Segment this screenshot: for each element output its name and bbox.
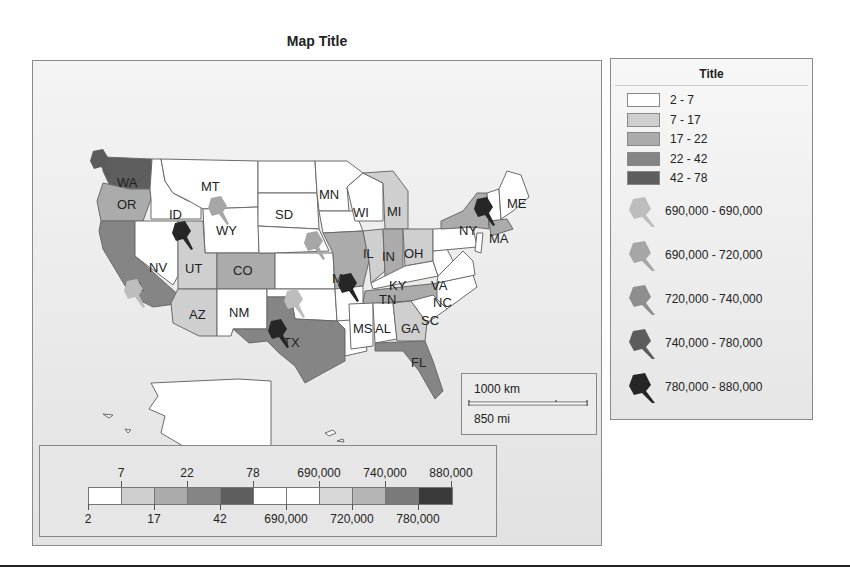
label-il: IL [363,246,374,261]
legend-title: Title [615,59,808,86]
bottom-divider [0,565,850,567]
label-wa: WA [117,175,138,190]
tick-mark [352,504,353,510]
legend-pin-label: 780,000 - 880,000 [665,380,762,394]
label-ma: MA [489,231,509,246]
state-fl[interactable] [375,341,443,399]
legend-pin-item: 780,000 - 880,000 [629,371,762,403]
pushpin-icon [629,195,659,227]
ramp-top-tick: 7 [118,466,125,480]
legend-class-item: 7 - 17 [627,113,701,127]
map-title: Map Title [32,33,602,49]
scale-bar: 1000 km 850 mi [461,373,597,435]
legend-pin-item: 690,000 - 720,000 [629,239,762,271]
ramp-swatch [320,488,353,504]
label-mi: MI [387,204,401,219]
ramp-top-tick: 880,000 [429,466,472,480]
ramp-swatch [122,488,155,504]
label-fl: FL [411,355,426,370]
ramp-swatch [353,488,386,504]
ramp-bottom-tick: 2 [85,512,92,526]
label-oh: OH [404,246,424,261]
label-sd: SD [275,207,293,222]
legend-class-label: 22 - 42 [670,152,707,166]
ramp-swatch [419,488,452,504]
state-me[interactable] [499,171,529,219]
ramp-bottom-tick: 720,000 [330,512,373,526]
pushpin-icon [629,371,659,403]
tick-mark [286,504,287,510]
ramp-bottom-tick: 690,000 [264,512,307,526]
ramp-bottom-tick: 780,000 [396,512,439,526]
state-nd[interactable] [258,161,317,193]
tick-mark [418,504,419,510]
legend-pin-label: 690,000 - 720,000 [665,248,762,262]
label-nv: NV [149,260,167,275]
legend-class-label: 17 - 22 [670,132,707,146]
label-va: VA [431,278,448,293]
legend-panel: Title 2 - 7 7 - 17 17 - 22 22 - 42 42 - … [610,58,813,420]
legend-pin-label: 740,000 - 780,000 [665,336,762,350]
tick-mark [154,504,155,510]
ramp-swatch [254,488,287,504]
label-tn: TN [379,292,396,307]
color-ramp [88,487,453,505]
map-frame[interactable]: WA OR CA ID NV MT WY UT CO AZ NM SD TX M… [32,60,602,546]
legend-pin-item: 740,000 - 780,000 [629,327,762,359]
ramp-bottom-tick: 17 [147,512,160,526]
legend-pin-label: 720,000 - 740,000 [665,292,762,306]
legend-class-item: 22 - 42 [627,152,707,166]
legend-pin-item: 690,000 - 690,000 [629,195,762,227]
label-ny: NY [459,223,477,238]
label-id: ID [169,207,182,222]
label-wi: WI [353,205,369,220]
ramp-top-tick: 740,000 [363,466,406,480]
state-ks[interactable] [275,253,335,289]
label-ut: UT [185,261,202,276]
label-nc: NC [433,295,452,310]
label-mn: MN [319,187,339,202]
legend-class-label: 42 - 78 [670,171,707,185]
tick-mark [220,504,221,510]
color-swatch [627,113,660,127]
pushpin-icon [629,327,659,359]
ramp-bottom-tick: 42 [213,512,226,526]
label-al: AL [375,321,391,336]
ramp-swatch [221,488,254,504]
ramp-swatch [386,488,419,504]
pushpin-icon [629,239,659,271]
label-sc: SC [421,313,439,328]
color-ramp-legend: 7 22 78 690,000 740,000 880,000 [39,445,497,537]
label-wy: WY [216,223,237,238]
ramp-swatch [287,488,320,504]
color-swatch [627,152,660,166]
label-ky: KY [389,278,407,293]
label-az: AZ [189,307,206,322]
ramp-top-tick: 690,000 [297,466,340,480]
legend-class-item: 2 - 7 [627,93,694,107]
pushpin-icon [629,283,659,315]
ramp-swatch [188,488,221,504]
ramp-top-tick: 78 [246,466,259,480]
tick-mark [88,504,89,510]
legend-pin-label: 690,000 - 690,000 [665,204,762,218]
legend-class-label: 7 - 17 [670,113,701,127]
ramp-swatch [89,488,122,504]
ramp-top-tick: 22 [180,466,193,480]
label-me: ME [507,196,527,211]
label-ga: GA [401,321,420,336]
legend-class-item: 42 - 78 [627,171,707,185]
color-swatch [627,171,660,185]
scale-km-label: 1000 km [474,382,520,396]
label-in: IN [382,249,395,264]
ramp-swatch [155,488,188,504]
label-nm: NM [229,305,249,320]
legend-pin-item: 720,000 - 740,000 [629,283,762,315]
legend-class-label: 2 - 7 [670,93,694,107]
color-swatch [627,132,660,146]
scale-ruler [468,400,588,406]
legend-class-item: 17 - 22 [627,132,707,146]
label-mt: MT [201,179,220,194]
color-swatch [627,93,660,107]
scale-mi-label: 850 mi [474,412,510,426]
